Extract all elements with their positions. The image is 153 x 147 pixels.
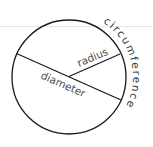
- diameter-label: diameter: [39, 69, 88, 100]
- radius-label: radius: [75, 45, 110, 69]
- circle-diagram: radius diameter circumference: [0, 0, 153, 147]
